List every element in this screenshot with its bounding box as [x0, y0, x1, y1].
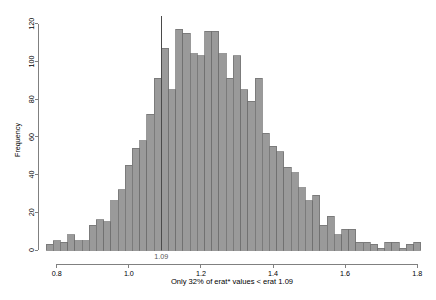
histogram-bar [320, 225, 327, 250]
histogram-bar [111, 201, 118, 250]
y-axis-tick-label: 80 [27, 95, 36, 103]
histogram-figure: 1.09 0.81.01.21.41.61.8 020406080100120 … [0, 0, 436, 300]
histogram-bars-group [46, 29, 421, 250]
histogram-bar [75, 241, 82, 250]
histogram-bar [406, 244, 413, 250]
histogram-bar [269, 146, 276, 250]
histogram-bar [147, 114, 154, 250]
histogram-bar [233, 56, 240, 250]
histogram-bar [399, 248, 406, 250]
histogram-bar [255, 78, 262, 250]
histogram-bar [125, 165, 132, 250]
histogram-bar [291, 173, 298, 250]
histogram-bar [370, 244, 377, 250]
histogram-bar [334, 235, 341, 250]
histogram-bar [414, 242, 421, 250]
x-axis-caption: Only 32% of erat* values < erat 1.09 [171, 277, 293, 286]
histogram-bar [298, 188, 305, 250]
reference-line-label: 1.09 [154, 252, 168, 261]
y-axis-tick-label: 60 [27, 133, 36, 141]
histogram-bar [277, 152, 284, 250]
histogram-bar [385, 242, 392, 250]
histogram-bar [154, 78, 161, 250]
histogram-bar [197, 56, 204, 250]
histogram-bar [205, 31, 212, 250]
y-axis-tick-label: 100 [27, 55, 36, 67]
histogram-bar [262, 133, 269, 250]
histogram-bar [82, 241, 89, 250]
histogram-bar [219, 54, 226, 250]
histogram-bar [356, 242, 363, 250]
histogram-bar [176, 29, 183, 250]
histogram-bar [183, 33, 190, 250]
histogram-bar [169, 90, 176, 250]
histogram-bar [313, 195, 320, 250]
histogram-bar [53, 241, 60, 250]
histogram-bar [241, 90, 248, 250]
histogram-bar [46, 244, 53, 250]
x-axis-tick-label: 1.6 [340, 269, 350, 278]
histogram-bar [226, 78, 233, 250]
histogram-bar [284, 167, 291, 250]
x-axis: 0.81.01.21.41.61.8 [52, 264, 422, 278]
histogram-bar [132, 148, 139, 250]
x-axis-tick-label: 1.0 [124, 269, 134, 278]
histogram-bar [342, 229, 349, 250]
x-axis-tick-label: 1.8 [412, 269, 422, 278]
histogram-bar [104, 222, 111, 250]
histogram-bar [349, 229, 356, 250]
histogram-plot: 1.09 0.81.01.21.41.61.8 020406080100120 … [0, 0, 436, 300]
y-axis-tick-label: 20 [27, 208, 36, 216]
histogram-bar [392, 242, 399, 250]
histogram-bar [140, 141, 147, 250]
histogram-bar [327, 216, 334, 250]
histogram-bar [378, 248, 385, 250]
y-axis-label: Frequency [13, 123, 22, 157]
histogram-bar [363, 242, 370, 250]
y-axis-tick-label: 0 [27, 248, 36, 252]
histogram-bar [161, 48, 168, 250]
y-axis-tick-label: 40 [27, 171, 36, 179]
histogram-bar [118, 190, 125, 250]
histogram-bar [305, 201, 312, 250]
histogram-bar [89, 225, 96, 250]
y-axis-tick-label: 120 [27, 18, 36, 30]
histogram-bar [248, 101, 255, 250]
histogram-bar [68, 235, 75, 250]
y-axis: 020406080100120 [27, 18, 38, 252]
histogram-bar [96, 220, 103, 250]
histogram-bar [212, 31, 219, 250]
histogram-bar [190, 54, 197, 250]
histogram-bar [60, 242, 67, 250]
x-axis-tick-label: 0.8 [52, 269, 62, 278]
